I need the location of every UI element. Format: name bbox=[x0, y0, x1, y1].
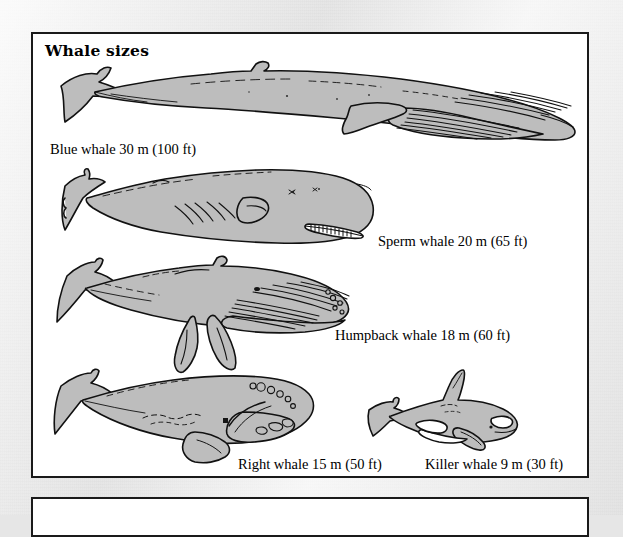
right-whale-label: Right whale 15 m (50 ft) bbox=[238, 456, 382, 473]
killer-whale-label: Killer whale 9 m (30 ft) bbox=[425, 456, 563, 473]
next-figure-panel bbox=[31, 497, 589, 537]
humpback-whale-label: Humpback whale 18 m (60 ft) bbox=[335, 327, 510, 344]
blue-whale-label: Blue whale 30 m (100 ft) bbox=[50, 141, 196, 158]
whale-sizes-figure-panel: Whale sizes bbox=[31, 32, 589, 478]
sperm-whale-label: Sperm whale 20 m (65 ft) bbox=[378, 233, 527, 250]
killer-whale-illustration bbox=[363, 366, 533, 456]
page-title: Whale sizes bbox=[45, 41, 149, 60]
